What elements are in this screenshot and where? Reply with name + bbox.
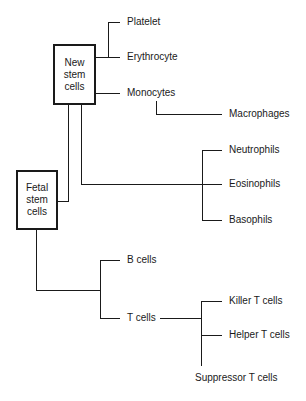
edge-macrophages <box>156 101 222 114</box>
edge-b-t <box>100 260 120 318</box>
edge-fetal-trunk <box>36 229 100 290</box>
node-macrophages: Macrophages <box>229 108 290 120</box>
edge-granulocytes-trunk <box>81 104 222 184</box>
edge-neutro-baso <box>202 150 222 220</box>
node-suppressor-t-cells: Suppressor T cells <box>195 372 277 384</box>
node-monocytes: Monocytes <box>127 87 175 99</box>
fetal-stem-line-3: cells <box>26 206 48 218</box>
node-eosinophils: Eosinophils <box>229 178 280 190</box>
node-b-cells: B cells <box>127 254 156 266</box>
edge-platelet <box>108 22 120 57</box>
new-stem-cells-box: New stem cells <box>53 44 96 105</box>
fetal-stem-line-1: Fetal <box>26 182 48 194</box>
new-stem-line-1: New <box>64 57 86 69</box>
node-platelet: Platelet <box>127 16 160 28</box>
node-killer-t-cells: Killer T cells <box>229 295 283 307</box>
new-stem-line-2: stem <box>64 69 86 81</box>
node-neutrophils: Neutrophils <box>229 144 280 156</box>
edge-killer <box>201 301 222 366</box>
fetal-stem-line-2: stem <box>26 194 48 206</box>
node-t-cells: T cells <box>127 312 156 324</box>
node-erythrocyte: Erythrocyte <box>127 51 178 63</box>
new-stem-line-3: cells <box>64 81 86 93</box>
node-helper-t-cells: Helper T cells <box>229 329 290 341</box>
fetal-stem-cells-box: Fetal stem cells <box>16 170 58 230</box>
node-basophils: Basophils <box>229 214 272 226</box>
edge-fetal <box>57 104 68 201</box>
